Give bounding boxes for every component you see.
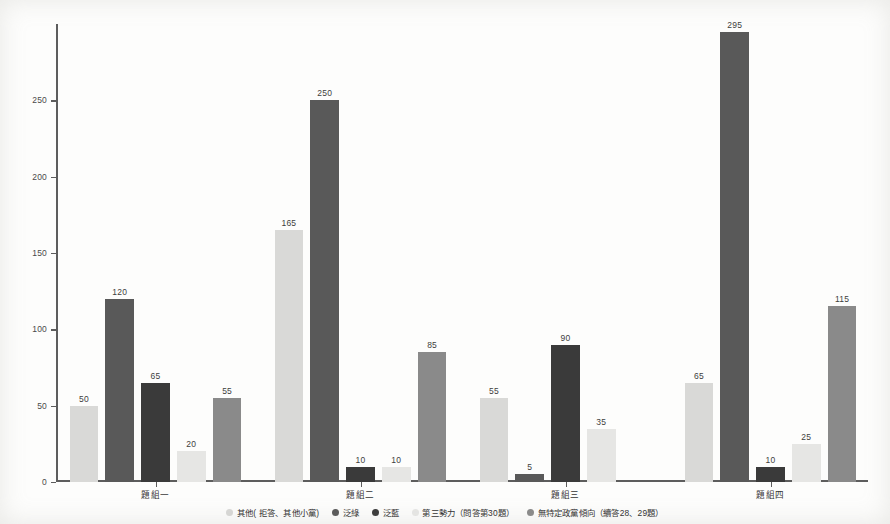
bar-value-label: 20 bbox=[186, 439, 196, 449]
bar: 90 bbox=[551, 345, 580, 482]
chart-legend: 其他( 拒答、其他小黨)泛綠泛藍第三勢力（問答第30題）無特定政黨傾向（續答28… bbox=[0, 506, 890, 518]
legend-swatch-icon bbox=[226, 509, 233, 516]
legend-swatch-icon bbox=[527, 509, 534, 516]
bar-value-label: 90 bbox=[561, 333, 571, 343]
x-axis-group-tick bbox=[156, 482, 157, 487]
bar-value-label: 10 bbox=[766, 455, 776, 465]
legend-swatch-icon bbox=[372, 509, 379, 516]
bar: 10 bbox=[346, 467, 375, 482]
y-axis-tick-mark bbox=[51, 482, 56, 483]
bar-value-label: 65 bbox=[694, 371, 704, 381]
y-axis-tick-label: 250 bbox=[32, 95, 47, 105]
bar: 115 bbox=[828, 306, 857, 482]
x-axis-group-label: 題組三 bbox=[551, 488, 579, 500]
bar: 85 bbox=[418, 352, 447, 482]
y-axis-line bbox=[56, 24, 58, 482]
bar-value-label: 120 bbox=[112, 287, 127, 297]
bar: 65 bbox=[141, 383, 170, 482]
x-axis-group-label: 題組一 bbox=[141, 488, 169, 500]
bar-value-label: 250 bbox=[317, 88, 332, 98]
bar: 295 bbox=[720, 32, 749, 482]
legend-item[interactable]: 泛藍 bbox=[372, 506, 399, 518]
bar: 10 bbox=[756, 467, 785, 482]
legend-swatch-icon bbox=[332, 509, 339, 516]
bar-value-label: 55 bbox=[489, 386, 499, 396]
y-axis-tick-mark bbox=[51, 253, 56, 254]
x-axis-group-tick bbox=[361, 482, 362, 487]
bar: 25 bbox=[792, 444, 821, 482]
legend-item-label: 第三勢力（問答第30題） bbox=[422, 506, 514, 518]
bar: 55 bbox=[213, 398, 242, 482]
x-axis-group-label: 題組二 bbox=[346, 488, 374, 500]
bar: 120 bbox=[105, 299, 134, 482]
y-axis-tick-label: 50 bbox=[37, 401, 47, 411]
bar-value-label: 25 bbox=[801, 432, 811, 442]
y-axis-tick-mark bbox=[51, 406, 56, 407]
legend-item-label: 泛藍 bbox=[383, 506, 399, 518]
x-axis-group-label: 題組四 bbox=[756, 488, 784, 500]
bar: 35 bbox=[587, 429, 616, 482]
bar: 5 bbox=[515, 474, 544, 482]
y-axis-tick-mark bbox=[51, 177, 56, 178]
bar-value-label: 165 bbox=[281, 218, 296, 228]
bar: 50 bbox=[70, 406, 99, 482]
bar-value-label: 35 bbox=[596, 417, 606, 427]
y-axis-tick-mark bbox=[51, 100, 56, 101]
legend-item-label: 其他( 拒答、其他小黨) bbox=[237, 506, 319, 518]
legend-item[interactable]: 無特定政黨傾向（續答28、29題） bbox=[527, 506, 664, 518]
y-axis-tick-label: 200 bbox=[32, 172, 47, 182]
legend-swatch-icon bbox=[412, 509, 419, 516]
bar: 10 bbox=[382, 467, 411, 482]
bar: 165 bbox=[275, 230, 304, 482]
bar-value-label: 10 bbox=[356, 455, 366, 465]
bar: 20 bbox=[177, 451, 206, 482]
y-axis-tick-label: 100 bbox=[32, 324, 47, 334]
bar-value-label: 65 bbox=[151, 371, 161, 381]
legend-item-label: 泛綠 bbox=[343, 506, 359, 518]
x-axis-group-tick bbox=[566, 482, 567, 487]
bar-value-label: 50 bbox=[79, 394, 89, 404]
bar-value-label: 10 bbox=[391, 455, 401, 465]
legend-item[interactable]: 其他( 拒答、其他小黨) bbox=[226, 506, 319, 518]
bar: 55 bbox=[480, 398, 509, 482]
bar-value-label: 295 bbox=[727, 20, 742, 30]
bar-value-label: 55 bbox=[222, 386, 232, 396]
bar: 250 bbox=[310, 100, 339, 482]
bar-value-label: 115 bbox=[835, 294, 849, 304]
bar: 65 bbox=[685, 383, 714, 482]
bar-chart-figure: 050100150200250 501206520551652501010855… bbox=[0, 0, 890, 524]
legend-item[interactable]: 泛綠 bbox=[332, 506, 359, 518]
y-axis-tick-label: 150 bbox=[32, 248, 47, 258]
bar-value-label: 5 bbox=[527, 462, 532, 472]
bar-value-label: 85 bbox=[427, 340, 437, 350]
y-axis-tick-mark bbox=[51, 329, 56, 330]
y-axis-tick-label: 0 bbox=[42, 477, 47, 487]
x-axis-group-tick bbox=[771, 482, 772, 487]
plot-area: 050100150200250 501206520551652501010855… bbox=[56, 24, 868, 482]
legend-item[interactable]: 第三勢力（問答第30題） bbox=[412, 506, 514, 518]
legend-item-label: 無特定政黨傾向（續答28、29題） bbox=[538, 506, 664, 518]
